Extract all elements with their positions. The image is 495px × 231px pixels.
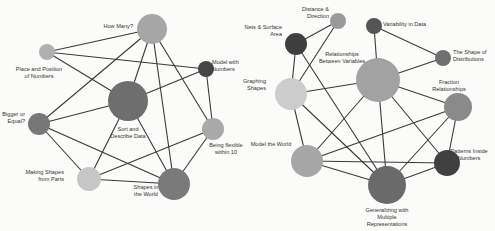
label-line: Model with	[212, 59, 239, 65]
label-line: Patterns Inside	[450, 148, 487, 154]
label-line: Fraction	[439, 79, 459, 85]
label-line: Multiple	[377, 214, 396, 220]
label-line: Being flexible	[209, 142, 242, 148]
right-network: Distance &DirectionNets & SurfaceAreaVar…	[243, 6, 488, 227]
node-label-being-flexible: Being flexiblewithin 10	[209, 142, 242, 155]
node-sort-describe	[108, 81, 148, 121]
label-line: Describe Data	[110, 133, 146, 139]
label-line: The Shape of	[453, 49, 487, 55]
label-line: Generalizing with	[366, 207, 409, 213]
node-nets-surface	[285, 33, 307, 55]
node-relationships	[356, 58, 400, 102]
label-line: How Many?	[103, 23, 133, 29]
node-label-graphing-shapes: GraphingShapes	[243, 78, 266, 91]
node-label-place-position: Place and Positionof Numbers	[16, 66, 62, 79]
node-variability	[366, 18, 382, 34]
label-line: Shapes in	[134, 184, 159, 190]
label-line: Area	[270, 31, 283, 37]
label-line: Place and Position	[16, 66, 62, 72]
node-label-how-many: How Many?	[103, 23, 133, 29]
label-line: the World	[134, 191, 158, 197]
label-line: Nets & Surface	[244, 24, 282, 30]
label-line: Relationships	[325, 51, 359, 57]
node-label-nets-surface: Nets & SurfaceArea	[244, 24, 283, 37]
label-line: Relationships	[432, 86, 466, 92]
node-shapes-world	[158, 168, 190, 200]
edge-variability-shape-distributions	[374, 26, 443, 58]
label-line: Representations	[367, 221, 408, 227]
node-graphing-shapes	[275, 78, 307, 110]
node-label-fraction-relationships: FractionRelationships	[432, 79, 466, 92]
edge-how-many-shapes-world	[152, 29, 174, 184]
node-label-model-numbers: Model withNumbers	[212, 59, 239, 72]
label-line: Distance &	[302, 6, 329, 12]
label-line: Shapes	[247, 85, 266, 91]
label-line: within 10	[214, 149, 237, 155]
left-network: How Many?Place and Positionof NumbersMod…	[2, 14, 242, 200]
node-label-model-world: Model the World	[251, 141, 292, 147]
label-line: Model the World	[251, 141, 292, 147]
edge-place-position-how-many	[47, 29, 152, 52]
node-generalizing	[368, 166, 406, 204]
label-line: Making Shapes	[25, 169, 64, 175]
node-label-making-shapes: Making Shapesfrom Parts	[25, 169, 64, 182]
node-shape-distributions	[435, 50, 451, 66]
label-line: Direction	[307, 13, 329, 19]
node-fraction-relationships	[444, 93, 472, 121]
node-label-shapes-world: Shapes inthe World	[134, 184, 159, 197]
node-label-sort-describe: Sort andDescribe Data	[110, 126, 146, 139]
node-label-relationships: RelationshipsBetween Variables	[319, 51, 365, 64]
node-label-distance-direction: Distance &Direction	[302, 6, 329, 19]
node-making-shapes	[77, 167, 101, 191]
label-line: Variability in Data	[383, 21, 427, 27]
node-being-flexible	[202, 118, 224, 140]
node-label-bigger-equal: Bigger orEqual?	[2, 111, 25, 124]
edge-fraction-relationships-model-world	[307, 107, 458, 161]
node-bigger-equal	[28, 113, 50, 135]
node-distance-direction	[330, 13, 346, 29]
edge-model-world-patterns-inside	[307, 161, 447, 163]
label-line: Equal?	[8, 118, 25, 124]
network-diagram: How Many?Place and Positionof NumbersMod…	[0, 0, 495, 231]
label-line: Between Variables	[319, 58, 365, 64]
node-label-generalizing: Generalizing withMultipleRepresentations	[366, 207, 409, 227]
label-line: Bigger or	[2, 111, 25, 117]
node-place-position	[39, 44, 55, 60]
node-label-variability: Variability in Data	[383, 21, 427, 27]
right-nodes	[275, 13, 472, 204]
label-line: Graphing	[243, 78, 266, 84]
node-how-many	[137, 14, 167, 44]
node-label-shape-distributions: The Shape ofDistributions	[453, 49, 487, 62]
label-line: Numbers	[212, 66, 235, 72]
label-line: from Parts	[38, 176, 64, 182]
label-line: Sort and	[117, 126, 138, 132]
label-line: of Numbers	[25, 73, 54, 79]
node-model-world	[291, 145, 323, 177]
label-line: Distributions	[453, 56, 484, 62]
label-line: Numbers	[458, 155, 481, 161]
